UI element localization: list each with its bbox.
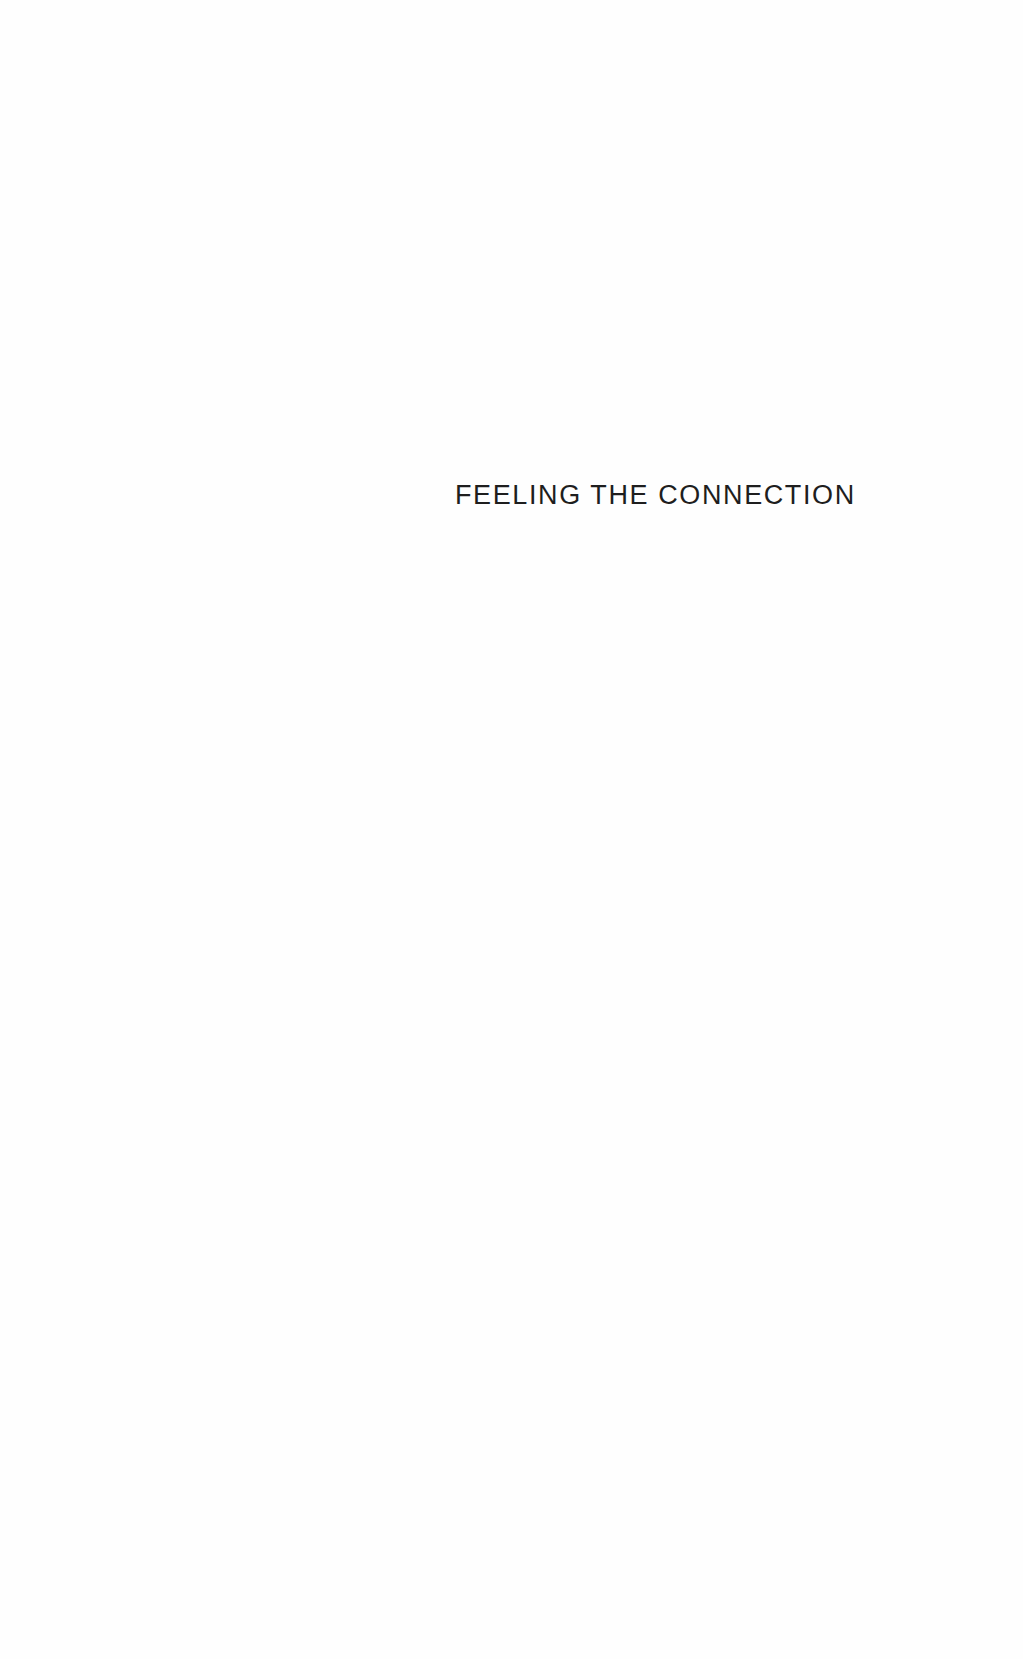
book-page: FEELING THE CONNECTION xyxy=(0,0,1023,1659)
half-title: FEELING THE CONNECTION xyxy=(455,479,856,511)
